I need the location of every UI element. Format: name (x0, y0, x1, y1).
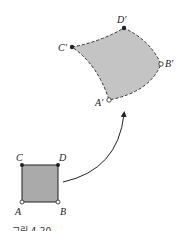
label-b-prime: B′ (165, 58, 174, 69)
point-b-prime (159, 62, 163, 66)
point-d-prime (122, 26, 126, 30)
label-a-prime: A′ (94, 97, 104, 108)
point-d (56, 163, 60, 167)
label-d: D (58, 152, 67, 163)
label-c: C (16, 152, 23, 163)
mapping-diagram: C′ D′ B′ A′ C D A B 그림 4-20 (0, 0, 184, 231)
point-c-prime (70, 45, 74, 49)
point-b (56, 200, 60, 204)
figure-caption: 그림 4-20 (12, 225, 52, 231)
point-a-prime (107, 98, 111, 102)
point-c (20, 163, 24, 167)
source-region: C D A B (14, 152, 67, 217)
label-d-prime: D′ (116, 14, 127, 25)
label-a: A (14, 206, 22, 217)
label-b: B (60, 206, 66, 217)
image-region: C′ D′ B′ A′ (58, 14, 174, 108)
point-a (20, 200, 24, 204)
mapping-arrow (63, 114, 124, 182)
label-c-prime: C′ (58, 42, 68, 53)
